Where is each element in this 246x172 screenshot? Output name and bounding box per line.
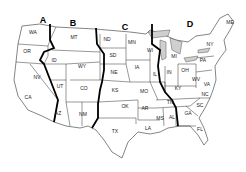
state-label-fl: FL [197,126,203,132]
state-label-ms: MS [156,115,164,121]
state-label-nc: NC [201,91,209,97]
state-label-al: AL [169,114,175,120]
state-label-ne: NE [111,69,119,75]
state-label-ca: CA [25,94,33,100]
state-label-in: IN [167,69,172,75]
zone-label-d: D [187,19,194,29]
zone-label-a: A [40,15,47,25]
state-label-oh: OH [181,67,189,73]
state-label-sd: SD [110,52,117,58]
zone-label-c: C [122,22,129,32]
state-label-ky: KY [175,85,182,91]
state-label-pa: PA [200,57,207,63]
state-label-az: AZ [55,110,61,116]
state-label-ks: KS [112,87,119,93]
state-label-mi: MI [171,53,177,59]
state-label-tx: TX [112,128,119,134]
state-label-ut: UT [57,83,64,89]
state-label-id: ID [52,57,57,63]
state-label-wi: WI [147,47,153,53]
state-label-ga: GA [184,110,192,116]
state-label-va: VA [204,81,211,87]
state-label-co: CO [80,85,88,91]
state-label-mo: MO [140,88,148,94]
state-label-me: ME [226,19,234,25]
state-label-tn: TN [167,99,174,105]
state-label-wv: WV [192,76,201,82]
state-label-nd: ND [103,36,111,42]
us-zone-map: A B C D WA OR CA NV ID MT WY UT CO AZ NM… [0,0,246,172]
state-label-wa: WA [29,29,38,35]
state-label-ok: OK [121,103,129,109]
state-label-nv: NV [34,74,42,80]
state-label-ny: NY [207,41,215,47]
state-label-il: IL [153,71,157,77]
state-label-wy: WY [78,63,87,69]
state-label-or: OR [23,48,31,54]
state-label-mn: MN [128,39,136,45]
state-label-ia: IA [135,64,140,70]
state-label-la: LA [145,125,152,131]
state-label-mt: MT [70,34,77,40]
state-label-ar: AR [142,105,149,111]
zone-label-b: B [70,18,77,28]
state-label-sc: SC [197,102,204,108]
state-label-nm: NM [79,111,87,117]
